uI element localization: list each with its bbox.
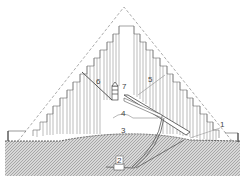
label-2: 2 — [117, 156, 122, 165]
label-3: 3 — [121, 126, 126, 135]
label-1-leader — [190, 128, 220, 138]
upper-chamber-7 — [112, 82, 118, 100]
pyramid-cross-section-diagram: 1 2 3 4 5 6 7 — [0, 0, 246, 181]
label-5: 5 — [148, 75, 153, 84]
label-7: 7 — [122, 82, 127, 91]
label-4: 4 — [121, 109, 126, 118]
chamber-4 — [113, 114, 158, 118]
label-6: 6 — [96, 77, 101, 86]
label-1: 1 — [220, 120, 225, 129]
